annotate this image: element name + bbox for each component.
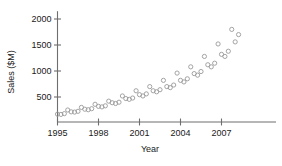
data-point (175, 71, 179, 75)
x-tick-label: 1998 (88, 128, 108, 138)
data-point (230, 27, 234, 31)
data-point (161, 78, 165, 82)
data-point (216, 42, 220, 46)
y-tick-label: 500 (36, 92, 51, 102)
data-point (189, 65, 193, 69)
data-point (236, 33, 240, 37)
x-tick-label: 2004 (170, 128, 190, 138)
y-tick-label: 1000 (31, 66, 51, 76)
x-tick-label: 1995 (47, 128, 67, 138)
y-tick-label: 2000 (31, 14, 51, 24)
x-axis: 19951998200120042007 (47, 119, 276, 139)
data-point (233, 40, 237, 44)
data-point (209, 65, 213, 69)
data-point (226, 49, 230, 53)
x-tick-label: 2001 (129, 128, 149, 138)
x-axis-title: Year (141, 144, 159, 154)
data-point (172, 83, 176, 87)
y-tick-label: 1500 (31, 40, 51, 50)
scatter-chart: 500100015002000 19951998200120042007 Sal… (0, 0, 282, 166)
data-point (185, 77, 189, 81)
x-tick-label: 2007 (211, 128, 231, 138)
data-point (213, 61, 217, 65)
y-axis-title: Sales ($M) (6, 50, 16, 94)
data-point (148, 85, 152, 89)
data-point (134, 89, 138, 93)
data-points (55, 27, 240, 116)
chart-canvas: 500100015002000 19951998200120042007 Sal… (0, 0, 282, 166)
data-point (199, 69, 203, 73)
y-axis: 500100015002000 (31, 11, 61, 122)
data-point (202, 54, 206, 58)
data-point (223, 54, 227, 58)
data-point (144, 92, 148, 96)
data-point (158, 88, 162, 92)
